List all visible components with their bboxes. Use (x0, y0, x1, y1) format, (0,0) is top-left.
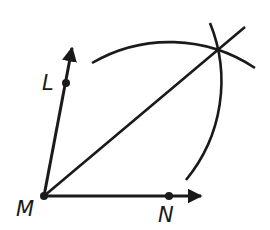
angle-bisector-diagram (0, 0, 270, 230)
angle-bisector-line (44, 27, 245, 196)
label-m: M (16, 199, 34, 220)
point-n-dot (165, 192, 173, 200)
point-m-dot (40, 192, 48, 200)
label-n: N (158, 205, 174, 226)
label-l: L (42, 73, 54, 94)
point-l-dot (62, 79, 70, 87)
arc-centered-n (92, 42, 255, 68)
